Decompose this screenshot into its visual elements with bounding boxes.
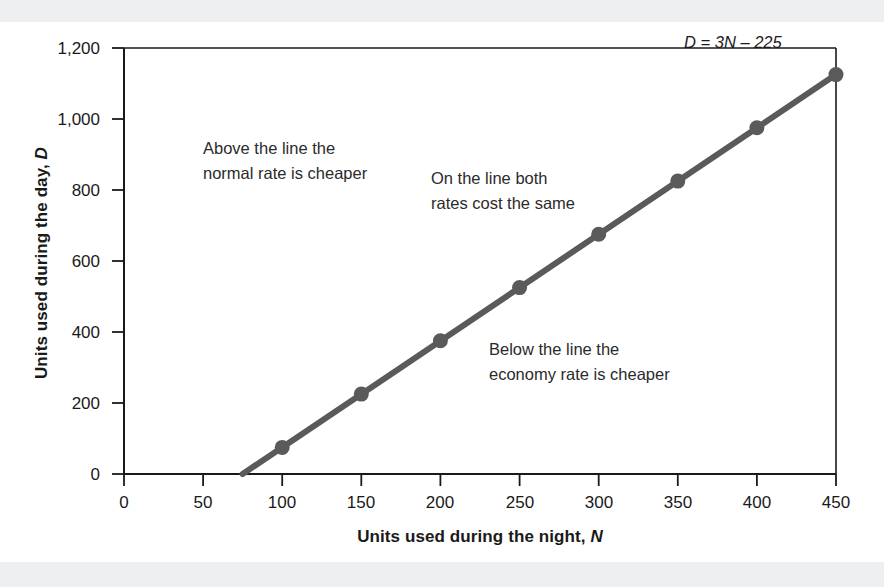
data-point-200 [433, 333, 448, 348]
data-point-250 [512, 280, 527, 295]
x-tick-label-50: 50 [173, 493, 233, 513]
x-tick-label-200: 200 [410, 493, 470, 513]
data-point-450 [829, 67, 844, 82]
y-tick-label-200: 200 [20, 394, 100, 414]
x-tick-label-250: 250 [490, 493, 550, 513]
x-tick-label-400: 400 [727, 493, 787, 513]
y-tick-label-1000: 1,000 [20, 110, 100, 130]
axis-lines [124, 48, 836, 474]
data-point-150 [354, 387, 369, 402]
series-line [243, 75, 836, 474]
equation-label: D = 3N – 225 [684, 33, 782, 52]
y-axis-title-variable: D [32, 147, 51, 159]
x-tick-label-450: 450 [806, 493, 866, 513]
y-axis-ticks [112, 48, 124, 474]
x-axis-title-variable: N [590, 527, 602, 546]
annotation-above-line: Above the line the normal rate is cheape… [203, 136, 367, 186]
data-point-350 [670, 174, 685, 189]
annotation-on-line: On the line both rates cost the same [431, 166, 575, 216]
x-axis-title-text: Units used during the night, [357, 527, 590, 546]
y-axis-title: Units used during the day, D [32, 133, 52, 393]
y-tick-label-1200: 1,200 [20, 39, 100, 59]
x-tick-label-150: 150 [331, 493, 391, 513]
y-axis-title-text: Units used during the day, [32, 159, 51, 379]
figure-page: 1,200 1,000 800 600 400 200 0 0 50 100 1… [0, 0, 884, 587]
x-tick-label-100: 100 [252, 493, 312, 513]
x-tick-label-0: 0 [94, 493, 154, 513]
annotation-below-line: Below the line the economy rate is cheap… [489, 337, 670, 387]
data-point-100 [275, 440, 290, 455]
series-line-group [243, 67, 844, 474]
x-tick-label-300: 300 [569, 493, 629, 513]
x-axis-ticks [124, 474, 836, 486]
data-point-300 [591, 227, 606, 242]
y-tick-label-0: 0 [20, 465, 100, 485]
x-tick-label-350: 350 [648, 493, 708, 513]
line-chart: 1,200 1,000 800 600 400 200 0 0 50 100 1… [0, 0, 884, 587]
data-point-400 [749, 120, 764, 135]
x-axis-title: Units used during the night, N [124, 527, 836, 547]
